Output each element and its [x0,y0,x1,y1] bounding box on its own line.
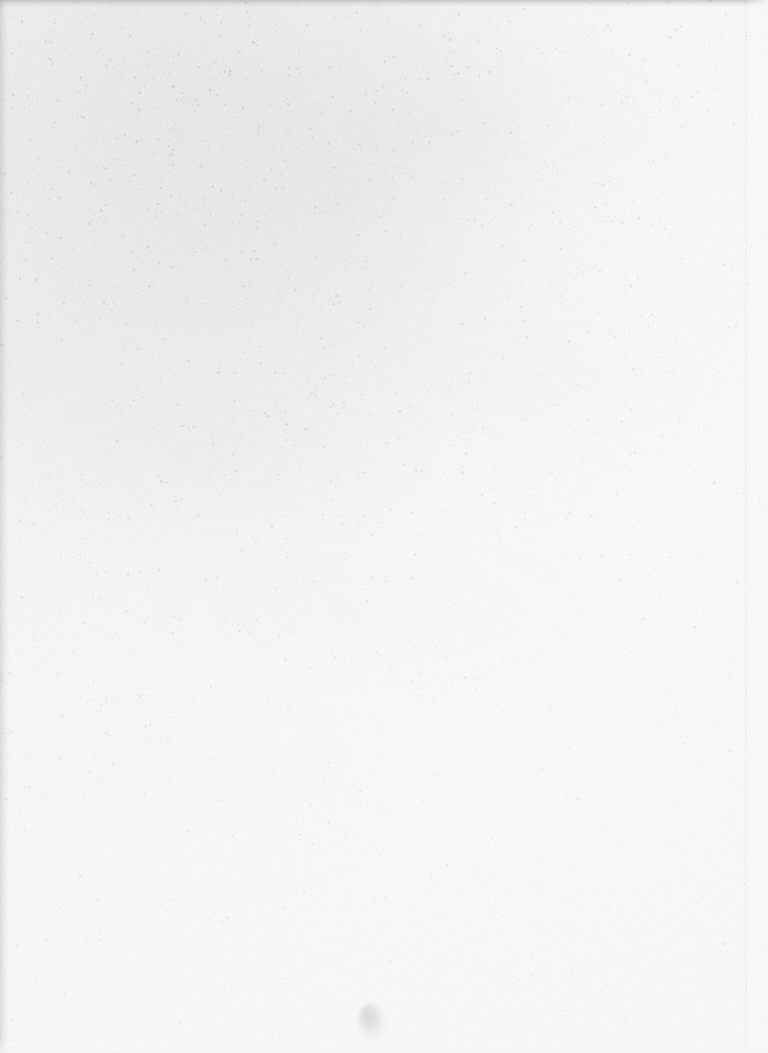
paper-speckle-noise [0,0,768,1053]
scanned-page [0,0,768,1053]
